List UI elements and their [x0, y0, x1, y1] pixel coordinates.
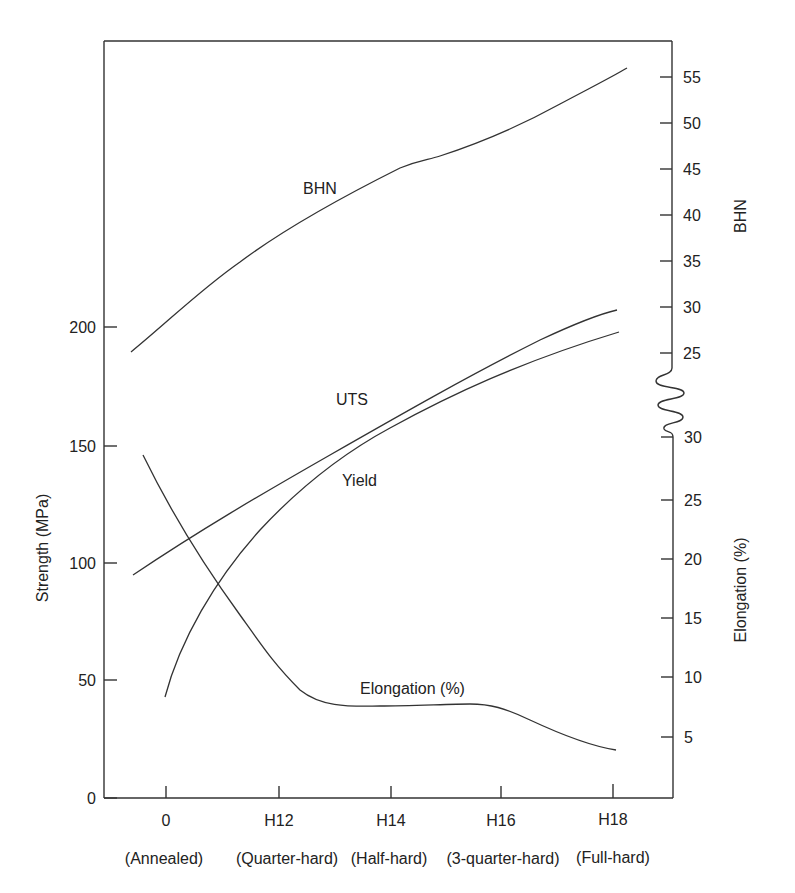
x-sublabel: (Quarter-hard) [236, 850, 338, 867]
elongation-tick-label: 30 [684, 429, 702, 446]
x-tick-label: H14 [376, 812, 405, 829]
x-ticks: 0 H12 H14 H16 H18 (Annealed) (Quarter-ha… [125, 784, 650, 867]
x-tick-label: 0 [162, 812, 171, 829]
x-tick-label: H18 [598, 811, 627, 828]
x-sublabel: (Half-hard) [351, 850, 427, 867]
bhn-curve-label: BHN [303, 180, 337, 197]
uts-curve-label: UTS [336, 391, 368, 408]
bhn-curve [131, 68, 627, 352]
bhn-tick-label: 30 [683, 299, 701, 316]
yield-curve-label: Yield [342, 472, 377, 489]
x-sublabel: (3-quarter-hard) [447, 850, 560, 867]
elongation-tick-label: 15 [684, 610, 702, 627]
left-tick-label: 100 [69, 555, 96, 572]
left-tick-label: 0 [87, 790, 96, 807]
left-tick-label: 200 [69, 319, 96, 336]
axis-break-icon [656, 368, 684, 437]
bhn-tick-label: 45 [683, 161, 701, 178]
elongation-curve [143, 455, 616, 750]
x-tick-label: H16 [486, 812, 515, 829]
bhn-tick-label: 50 [683, 115, 701, 132]
bhn-tick-label: 25 [683, 345, 701, 362]
elongation-tick-label: 25 [684, 492, 702, 509]
chart: 0 50 100 150 200 Strength (MPa) 25 30 35… [0, 0, 795, 893]
left-axis-title: Strength (MPa) [34, 494, 51, 602]
elongation-tick-label: 10 [684, 669, 702, 686]
bhn-tick-label: 40 [683, 207, 701, 224]
bhn-axis-title: BHN [732, 199, 749, 233]
elongation-tick-label: 5 [684, 729, 693, 746]
left-tick-label: 50 [78, 672, 96, 689]
elongation-axis-title: Elongation (%) [732, 538, 749, 643]
x-sublabel: (Full-hard) [576, 849, 650, 866]
bhn-tick-label: 35 [683, 253, 701, 270]
left-ticks: 0 50 100 150 200 [69, 319, 117, 807]
bhn-tick-label: 55 [683, 69, 701, 86]
elongation-ticks: 5 10 15 20 25 30 [661, 429, 702, 746]
elongation-tick-label: 20 [684, 551, 702, 568]
yield-curve [165, 332, 619, 697]
bhn-ticks: 25 30 35 40 45 50 55 [660, 69, 701, 362]
elongation-curve-label: Elongation (%) [360, 680, 465, 697]
left-tick-label: 150 [69, 438, 96, 455]
uts-curve [133, 310, 617, 575]
x-sublabel: (Annealed) [125, 850, 203, 867]
x-tick-label: H12 [264, 812, 293, 829]
